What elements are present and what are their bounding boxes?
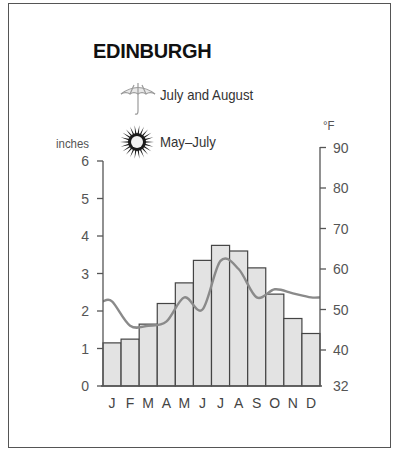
rainfall-bars (103, 245, 320, 386)
month-label: N (288, 395, 298, 411)
month-label: J (217, 395, 224, 411)
month-label: J (109, 395, 116, 411)
left-tick-label: 6 (81, 153, 89, 169)
rainfall-bar (248, 268, 266, 386)
left-tick-label: 5 (81, 191, 89, 207)
right-tick-label: 90 (333, 140, 349, 156)
left-tick-label: 1 (81, 341, 89, 357)
umbrella-icon (121, 83, 155, 114)
sun-icon (120, 125, 154, 159)
left-tick-label: 2 (81, 303, 89, 319)
rainfall-bar (139, 324, 157, 386)
right-tick-label: 60 (333, 261, 349, 277)
month-label: M (142, 395, 154, 411)
rainfall-bar (302, 334, 320, 387)
chart-canvas: 0123456 32405060708090 JFMAMJJASOND (0, 0, 403, 461)
right-tick-label: 50 (333, 302, 349, 318)
month-label: J (199, 395, 206, 411)
right-tick-label: 80 (333, 180, 349, 196)
month-label: D (306, 395, 316, 411)
rainfall-bar (212, 245, 230, 386)
month-label: F (126, 395, 135, 411)
left-tick-label: 4 (81, 228, 89, 244)
rainfall-bar (103, 343, 121, 386)
right-tick-label: 32 (333, 378, 349, 394)
rainfall-bar (266, 294, 284, 386)
month-label: A (234, 395, 244, 411)
rainfall-bar (121, 339, 139, 386)
left-axis-ticks: 0123456 (81, 153, 103, 394)
rainfall-bar (284, 319, 302, 387)
rainfall-bar (230, 251, 248, 386)
month-label: O (269, 395, 280, 411)
month-label: M (179, 395, 191, 411)
rainfall-bar (157, 304, 175, 387)
right-axis-ticks: 32405060708090 (320, 140, 349, 395)
right-tick-label: 40 (333, 342, 349, 358)
left-tick-label: 3 (81, 266, 89, 282)
left-tick-label: 0 (81, 378, 89, 394)
month-label: A (162, 395, 172, 411)
month-labels: JFMAMJJASOND (109, 395, 317, 411)
right-tick-label: 70 (333, 221, 349, 237)
month-label: S (252, 395, 261, 411)
rainfall-bar (193, 260, 211, 386)
